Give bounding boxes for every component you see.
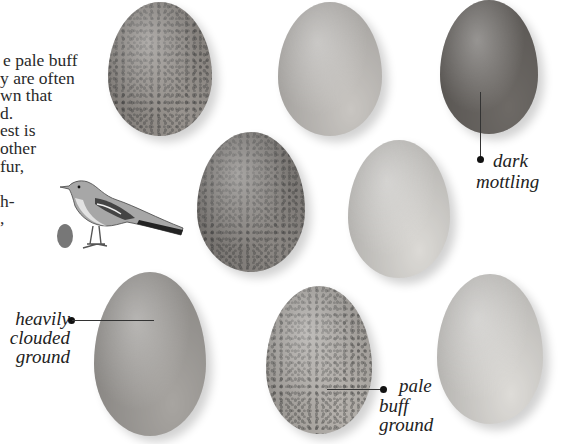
- small-egg-scale-reference: [57, 224, 73, 248]
- pale-buff-dot: [380, 386, 387, 393]
- label-pale-buff-ground: pale: [399, 376, 432, 395]
- label-dark-mottling-2: mottling: [476, 172, 539, 191]
- dark-mottling-dot: [477, 156, 484, 163]
- egg-top-right: [440, 0, 538, 134]
- mockingbird-illustration: [57, 178, 187, 258]
- egg-bottom-middle: [266, 286, 372, 434]
- label-pale-buff-ground-2: buff ground: [379, 396, 433, 434]
- dark-mottling-leader-line: [480, 92, 481, 159]
- label-dark-mottling: dark: [493, 151, 528, 170]
- egg-bottom-right: [437, 274, 543, 424]
- egg-top-left: [108, 2, 212, 136]
- egg-top-middle: [278, 2, 382, 136]
- heavily-clouded-leader-line: [72, 320, 154, 321]
- egg-middle-right: [348, 140, 450, 278]
- egg-middle-left: [197, 132, 305, 272]
- body-text-line: wn that: [0, 87, 110, 105]
- body-text-line: e pale buff: [0, 52, 110, 70]
- egg-bottom-left: [94, 272, 206, 436]
- label-heavily-clouded-ground: heavily clouded ground: [0, 309, 70, 366]
- body-text-line: fur,: [0, 158, 110, 176]
- body-text-line: other: [0, 140, 110, 158]
- pale-buff-leader-line: [327, 389, 385, 390]
